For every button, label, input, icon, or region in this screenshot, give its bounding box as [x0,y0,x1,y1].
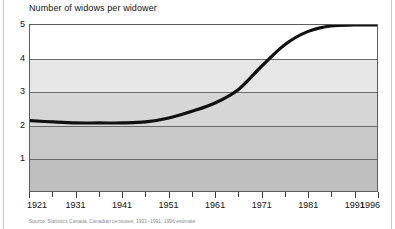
x-tick-1946 [145,192,146,197]
series-line-widows-per-widower [30,25,377,123]
x-tick-1926 [52,192,53,197]
y-tick-label-1: 1 [3,154,25,163]
figure-widows-per-widower: Number of widows per widower 54321 Sourc… [0,0,395,229]
y-axis: 54321 [0,0,25,229]
x-tick-1991 [355,192,356,198]
x-tick-label-1971: 1971 [252,200,272,210]
x-tick-label-1951: 1951 [159,200,179,210]
x-tick-label-1961: 1961 [205,200,225,210]
x-tick-label-1921: 1921 [27,200,47,210]
x-tick-1971 [262,192,263,198]
source-note: Source: Statistics Canada, Canadian cens… [29,218,389,224]
x-tick-1961 [215,192,216,198]
x-tick-1951 [169,192,170,198]
x-tick-1921 [29,192,30,198]
x-tick-1986 [331,192,332,197]
x-tick-1976 [285,192,286,197]
x-tick-1931 [76,192,77,198]
x-tick-1966 [238,192,239,197]
page-rule-right [391,0,392,229]
x-tick-1941 [122,192,123,198]
y-tick-label-4: 4 [3,54,25,63]
y-tick-label-2: 2 [3,121,25,130]
x-tick-label-1996: 1996 [360,200,380,210]
x-tick-label-1941: 1941 [112,200,132,210]
chart-title: Number of widows per widower [29,3,157,14]
x-tick-1981 [308,192,309,198]
series-line-chart [30,25,377,191]
y-tick-label-5: 5 [3,20,25,29]
x-tick-label-1981: 1981 [298,200,318,210]
plot-area [29,24,378,192]
y-tick-label-3: 3 [3,87,25,96]
x-tick-1936 [99,192,100,197]
x-tick-1956 [192,192,193,197]
x-tick-1996 [378,192,379,198]
x-tick-label-1931: 1931 [66,200,86,210]
